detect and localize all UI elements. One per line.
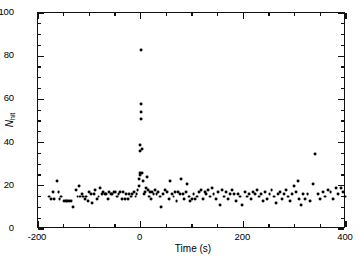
data-point — [306, 193, 309, 196]
x-axis-minor-tick — [320, 13, 321, 16]
x-axis-tick-label: -200 — [28, 232, 47, 242]
x-axis-minor-tick — [320, 224, 321, 227]
data-point — [166, 191, 169, 194]
y-axis-minor-tick — [38, 110, 41, 111]
data-point — [126, 197, 129, 200]
y-axis-major-tick — [38, 185, 44, 186]
x-axis-minor-tick — [294, 13, 295, 16]
x-axis-minor-tick — [63, 224, 64, 227]
data-point — [139, 143, 142, 146]
data-point — [334, 187, 337, 190]
data-point — [139, 102, 142, 105]
y-axis-minor-tick — [341, 23, 344, 24]
data-point — [266, 197, 269, 200]
y-axis-title: Nhit — [5, 113, 18, 128]
x-axis-minor-tick — [217, 224, 218, 227]
y-axis-major-tick — [338, 99, 344, 100]
data-point — [97, 195, 100, 198]
data-point — [52, 191, 55, 194]
y-axis-major-tick — [338, 56, 344, 57]
data-point — [302, 193, 305, 196]
x-axis-major-tick — [345, 221, 346, 227]
data-point — [145, 176, 148, 179]
data-point — [300, 204, 303, 207]
data-point — [72, 206, 75, 209]
y-axis-minor-tick — [38, 34, 41, 35]
x-axis-minor-tick — [114, 13, 115, 16]
data-point — [287, 195, 290, 198]
x-axis-major-tick — [140, 221, 141, 227]
data-point — [135, 193, 138, 196]
data-point — [248, 193, 251, 196]
data-point — [337, 193, 340, 196]
x-axis-minor-tick — [294, 224, 295, 227]
data-point — [229, 193, 232, 196]
data-point — [91, 202, 94, 205]
y-axis-minor-tick — [38, 207, 41, 208]
y-axis-minor-tick — [38, 174, 41, 175]
x-axis-tick-label: 200 — [235, 232, 251, 242]
data-point — [280, 197, 283, 200]
data-point — [224, 191, 227, 194]
y-axis-minor-tick — [38, 45, 41, 46]
data-point — [157, 191, 160, 194]
data-point — [311, 182, 314, 185]
y-axis-minor-tick — [38, 131, 41, 132]
data-point — [69, 199, 72, 202]
y-axis-minor-tick — [38, 66, 41, 67]
data-point — [181, 193, 184, 196]
data-point — [139, 117, 142, 120]
data-point — [222, 195, 225, 198]
x-axis-minor-tick — [166, 13, 167, 16]
data-point — [264, 191, 267, 194]
y-axis-minor-tick — [341, 207, 344, 208]
data-point — [180, 178, 183, 181]
y-axis-tick-label: 40 — [4, 137, 14, 147]
data-point — [141, 180, 144, 183]
y-axis-minor-tick — [38, 218, 41, 219]
y-axis-minor-tick — [38, 120, 41, 121]
y-axis-minor-tick — [341, 174, 344, 175]
y-axis-tick-label: 100 — [0, 7, 14, 17]
y-axis-tick-label: 80 — [4, 50, 14, 60]
data-point — [184, 191, 187, 194]
data-point — [216, 191, 219, 194]
data-point — [158, 195, 161, 198]
data-point — [289, 199, 292, 202]
data-point — [85, 195, 88, 198]
x-axis-minor-tick — [217, 13, 218, 16]
y-axis-major-tick — [338, 12, 344, 13]
data-point — [324, 195, 327, 198]
y-axis-minor-tick — [341, 218, 344, 219]
data-point — [160, 206, 163, 209]
y-axis-tick-label: 0 — [9, 223, 14, 233]
data-point — [186, 182, 189, 185]
data-point — [268, 193, 271, 196]
data-point — [199, 189, 202, 192]
data-point — [139, 111, 142, 114]
y-axis-minor-tick — [38, 88, 41, 89]
data-point — [172, 195, 175, 198]
data-point — [291, 193, 294, 196]
y-axis-minor-tick — [38, 196, 41, 197]
x-axis-minor-tick — [89, 13, 90, 16]
y-axis-title-base: N — [4, 120, 15, 127]
data-point — [169, 180, 172, 183]
y-axis-major-tick — [38, 12, 44, 13]
y-axis-minor-tick — [38, 164, 41, 165]
plot-frame — [37, 12, 345, 228]
data-point — [296, 180, 299, 183]
y-axis-minor-tick — [341, 120, 344, 121]
data-point — [272, 195, 275, 198]
data-point — [86, 199, 89, 202]
data-point — [149, 197, 152, 200]
data-point — [321, 191, 324, 194]
data-point — [209, 195, 212, 198]
data-point — [137, 184, 140, 187]
data-point — [319, 197, 322, 200]
data-point — [183, 197, 186, 200]
data-point — [274, 202, 277, 205]
data-point — [141, 171, 144, 174]
data-point — [140, 148, 143, 151]
data-point — [316, 193, 319, 196]
